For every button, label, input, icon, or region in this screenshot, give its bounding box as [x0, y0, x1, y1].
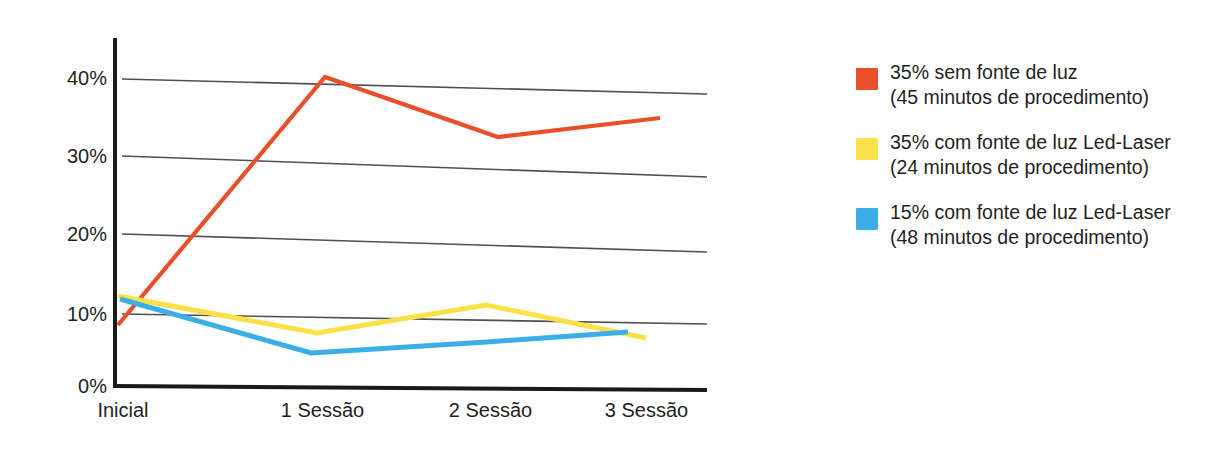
x-tick-label-sessao-3: 3 Sessão — [589, 399, 704, 422]
y-tick-label-0: 0% — [40, 375, 107, 398]
y-tick-label-40: 40% — [40, 67, 107, 90]
y-tick-label-20: 20% — [40, 223, 107, 246]
y-tick-label-10: 10% — [40, 303, 107, 326]
line-chart: 40% 30% 20% 10% 0% Inicial 1 Sessão 2 Se… — [0, 0, 1229, 449]
legend-swatch-red-icon — [856, 68, 878, 90]
legend-red-line-2: (45 minutos de procedimento) — [890, 85, 1216, 110]
x-tick-label-sessao-2: 2 Sessão — [433, 399, 548, 422]
legend-blue-line-1: 15% com fonte de luz Led-Laser — [890, 200, 1216, 225]
x-tick-label-sessao-1: 1 Sessão — [265, 399, 380, 422]
gridline-30 — [122, 156, 707, 177]
axes — [113, 38, 707, 390]
legend-red-line-1: 35% sem fonte de luz — [890, 60, 1216, 85]
legend-blue-line-2: (48 minutos de procedimento) — [890, 225, 1216, 250]
legend-item-red[interactable]: 35% sem fonte de luz (45 minutos de proc… — [856, 60, 1216, 110]
gridline-40 — [122, 79, 707, 94]
legend-yellow-line-2: (24 minutos de procedimento) — [890, 155, 1216, 180]
legend-yellow-line-1: 35% com fonte de luz Led-Laser — [890, 130, 1216, 155]
series-line-red — [118, 77, 660, 325]
y-tick-label-30: 30% — [40, 145, 107, 168]
legend-text-blue: 15% com fonte de luz Led-Laser (48 minut… — [890, 200, 1216, 250]
gridline-20 — [122, 234, 707, 252]
legend-swatch-blue-icon — [856, 208, 878, 230]
legend-item-blue[interactable]: 15% com fonte de luz Led-Laser (48 minut… — [856, 200, 1216, 250]
x-axis — [113, 386, 707, 390]
legend-swatch-yellow-icon — [856, 138, 878, 160]
legend-item-yellow[interactable]: 35% com fonte de luz Led-Laser (24 minut… — [856, 130, 1216, 180]
series-line-yellow — [118, 296, 646, 338]
legend-text-yellow: 35% com fonte de luz Led-Laser (24 minut… — [890, 130, 1216, 180]
chart-legend: 35% sem fonte de luz (45 minutos de proc… — [856, 60, 1216, 270]
legend-text-red: 35% sem fonte de luz (45 minutos de proc… — [890, 60, 1216, 110]
x-tick-label-inicial: Inicial — [68, 399, 178, 422]
gridlines — [122, 79, 707, 324]
